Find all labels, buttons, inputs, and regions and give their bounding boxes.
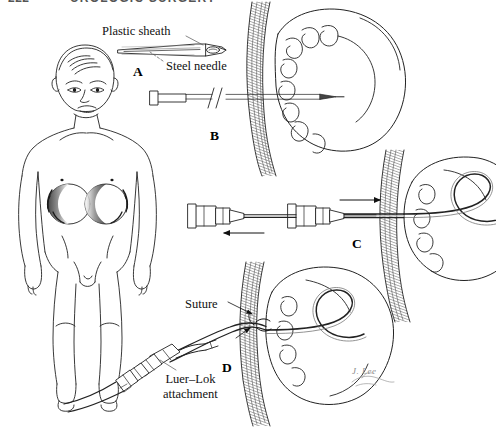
child-figure-illustration: [19, 45, 157, 411]
panel-letter-b: B: [210, 128, 219, 144]
artist-signature: J. Lee: [352, 366, 377, 376]
label-steel-needle: Steel needle: [166, 59, 227, 74]
label-suture: Suture: [185, 297, 218, 312]
panel-d-secured-catheter: [64, 262, 394, 426]
label-luer-lok-line2: attachment: [163, 387, 218, 402]
panel-a-sheathed-needle: [118, 36, 226, 61]
figure-percutaneous-nephrostomy: 222 UROLOGIC SURGERY: [0, 0, 496, 430]
figure-artwork: [0, 0, 496, 430]
label-plastic-sheath: Plastic sheath: [102, 24, 170, 39]
panel-letter-a: A: [133, 64, 143, 80]
label-luer-lok-line1: Luer–Lok: [163, 372, 218, 387]
label-luer-lok-attachment: Luer–Lok attachment: [163, 372, 218, 402]
kidney-position-markings: [48, 184, 128, 224]
panel-letter-c: C: [352, 236, 362, 252]
panel-letter-d: D: [222, 360, 232, 376]
panel-b-puncture: [150, 2, 406, 176]
